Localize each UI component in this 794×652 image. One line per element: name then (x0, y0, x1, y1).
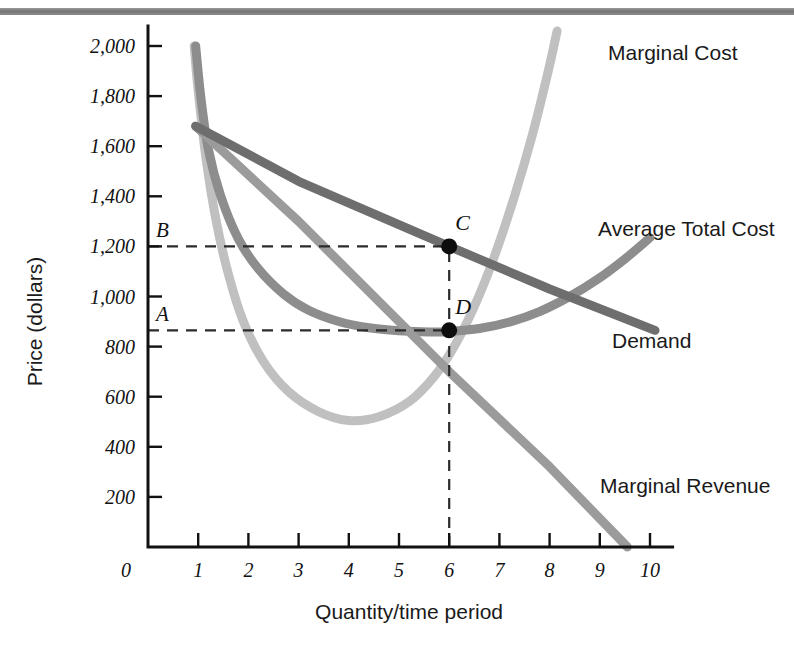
y-axis-tick-label: 1,400 (90, 185, 135, 207)
curve-marginal-cost (194, 31, 557, 421)
annotated-point-layer: C D (441, 210, 471, 338)
curve-layer (194, 31, 655, 547)
curve-label-demand: Demand (612, 329, 691, 352)
x-axis-tick-label: 9 (595, 559, 605, 581)
data-point-c (441, 238, 457, 254)
x-axis-tick-label: 5 (394, 559, 404, 581)
y-axis-tick-label: 1,000 (90, 286, 135, 308)
x-axis-tick-label: 3 (293, 559, 304, 581)
y-axis-tick-label: 1,600 (90, 135, 135, 157)
y-axis-tick-label: 800 (105, 336, 135, 358)
x-axis-tick-label: 4 (344, 559, 354, 581)
y-axis-tick-label: 1,800 (90, 85, 135, 107)
y-axis-ticks (148, 46, 162, 497)
y-axis-tick-label: 2,000 (90, 35, 135, 57)
y-axis-tick-label: 200 (105, 486, 135, 508)
curve-marginal-revenue (196, 126, 628, 547)
data-point-label-c: C (455, 210, 470, 235)
reference-label-b: B (156, 218, 169, 242)
data-point-d (441, 322, 457, 338)
curve-demand (196, 126, 655, 330)
curve-label-marginal-cost: Marginal Cost (608, 41, 738, 64)
x-axis-tick-label: 0 (121, 559, 131, 581)
x-axis-title: Quantity/time period (315, 600, 503, 623)
x-axis-tick-label: 7 (494, 559, 505, 581)
x-axis-ticks (198, 533, 650, 547)
x-axis-tick-label: 6 (444, 559, 454, 581)
reference-label-a: A (154, 302, 169, 326)
x-axis-tick-label: 1 (193, 559, 203, 581)
y-axis-title: Price (dollars) (23, 257, 46, 387)
data-point-label-d: D (454, 294, 471, 319)
x-axis-tick-labels: 012345678910 (121, 559, 660, 581)
x-axis-tick-label: 8 (545, 559, 555, 581)
y-axis-tick-label: 400 (105, 436, 135, 458)
economics-chart: 2004006008001,0001,2001,4001,6001,8002,0… (0, 0, 794, 652)
figure-container: 2004006008001,0001,2001,4001,6001,8002,0… (0, 0, 794, 652)
curve-label-marginal-revenue: Marginal Revenue (600, 474, 770, 497)
curve-label-average-total-cost: Average Total Cost (598, 217, 775, 240)
x-axis-tick-label: 10 (640, 559, 660, 581)
y-axis-tick-label: 600 (105, 386, 135, 408)
y-axis-tick-label: 1,200 (90, 235, 135, 257)
y-axis-tick-labels: 2004006008001,0001,2001,4001,6001,8002,0… (90, 35, 135, 508)
x-axis-tick-label: 2 (243, 559, 253, 581)
